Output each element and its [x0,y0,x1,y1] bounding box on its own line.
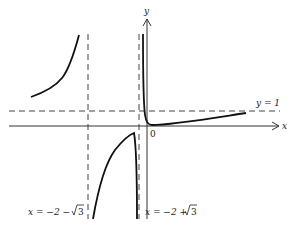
origin-label: 0 [150,129,156,139]
y-axis-label: y [143,6,150,16]
svg-text:3: 3 [78,207,84,217]
x-axis-label: x [282,121,287,131]
function-graph: y x 0 y = 1 x = −2 − 3 x = −2 + 3 [0,0,292,225]
vertical-asymptote-right-label: x = −2 + 3 [145,205,197,217]
curve-branch-middle [93,133,137,219]
svg-text:3: 3 [191,207,197,217]
svg-text:x = −2 −: x = −2 − [28,207,70,217]
svg-text:x = −2 +: x = −2 + [145,207,187,217]
curve-branch-left [31,35,79,97]
vertical-asymptote-left-label: x = −2 − 3 [28,205,84,217]
horizontal-asymptote-label: y = 1 [255,98,280,108]
